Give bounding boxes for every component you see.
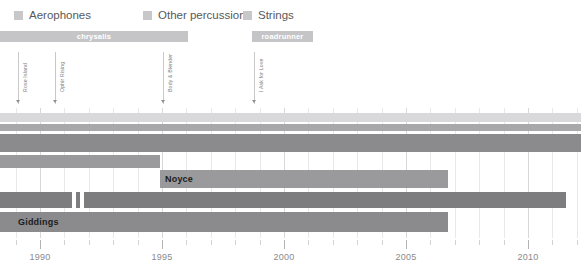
era-band-label: roadrunner (252, 31, 313, 42)
axis-tick-minor (308, 240, 309, 245)
track-4[interactable] (0, 155, 581, 168)
bar-segment[interactable] (0, 113, 581, 122)
legend-label: Aerophones (29, 9, 91, 21)
axis-tick-minor (16, 240, 17, 245)
axis-tick-label: 1990 (29, 252, 50, 262)
event-arrow-icon (53, 100, 57, 103)
axis-tick-minor (260, 240, 261, 245)
axis-tick-minor (333, 240, 334, 245)
axis-tick-minor (138, 240, 139, 245)
axis-tick-minor (89, 240, 90, 245)
axis-tick-minor (64, 240, 65, 245)
track-1[interactable] (0, 113, 581, 122)
bar-segment[interactable] (0, 212, 448, 232)
axis-tick-major (40, 240, 41, 249)
era-band-roadrunner[interactable]: roadrunner (252, 31, 313, 42)
axis-tick-minor (430, 240, 431, 245)
legend-swatch-icon (14, 11, 23, 20)
bar-label-noyce: Noyce (165, 174, 193, 184)
axis-tick-minor (357, 240, 358, 245)
axis-tick-minor (113, 240, 114, 245)
legend-swatch-icon (243, 11, 252, 20)
era-band-chrysalis[interactable]: chrysalis (0, 31, 188, 42)
plot-area: NoyceGiddings (0, 108, 581, 238)
axis-tick-major (406, 240, 407, 249)
axis-tick-major (162, 240, 163, 249)
track-noyce[interactable]: Noyce (0, 170, 581, 188)
axis-tick-label: 2010 (517, 252, 538, 262)
axis-tick-minor (479, 240, 480, 245)
event-arrow-icon (16, 100, 20, 103)
event-arrow-icon (252, 100, 256, 103)
axis-tick-minor (186, 240, 187, 245)
axis-tick-label: 2000 (273, 252, 294, 262)
legend-item-0[interactable]: Aerophones (14, 8, 91, 22)
legend-item-2[interactable]: Strings (243, 8, 294, 22)
axis-tick-minor (211, 240, 212, 245)
event-leader-line (18, 52, 19, 104)
legend-item-1[interactable]: Other percussion (143, 8, 246, 22)
timeline-chart: AerophonesOther percussionStrings chrysa… (0, 0, 581, 275)
event-label: Ophir Rising (59, 62, 65, 92)
bar-segment[interactable] (0, 124, 581, 131)
bar-label-giddings: Giddings (18, 217, 59, 227)
event-label: Body & Blender (167, 54, 173, 92)
track-2[interactable] (0, 124, 581, 131)
event-label: I Ask for Love (258, 58, 264, 92)
event-label: Rose Island (22, 63, 28, 92)
axis-tick-major (284, 240, 285, 249)
bar-segment[interactable] (160, 170, 448, 188)
era-band-label: chrysalis (0, 31, 188, 42)
axis-tick-label: 2005 (395, 252, 416, 262)
axis-tick-minor (455, 240, 456, 245)
event-leader-line (254, 52, 255, 104)
track-giddings[interactable]: Giddings (0, 212, 581, 232)
track-6[interactable] (0, 192, 581, 208)
bar-segment[interactable] (76, 192, 80, 208)
bar-segment[interactable] (0, 192, 72, 208)
track-3[interactable] (0, 134, 581, 152)
bar-segment[interactable] (0, 155, 160, 168)
axis-tick-minor (577, 240, 578, 245)
event-arrow-icon (161, 100, 165, 103)
legend-label: Strings (258, 9, 294, 21)
event-leader-line (163, 52, 164, 104)
x-axis: 19901995200020052010 (0, 240, 581, 270)
legend-swatch-icon (143, 11, 152, 20)
axis-tick-label: 1995 (151, 252, 172, 262)
axis-tick-minor (235, 240, 236, 245)
axis-tick-minor (382, 240, 383, 245)
chart-legend: AerophonesOther percussionStrings (0, 0, 581, 26)
axis-tick-minor (504, 240, 505, 245)
event-leader-line (55, 52, 56, 104)
axis-tick-minor (552, 240, 553, 245)
legend-label: Other percussion (158, 9, 246, 21)
bar-segment[interactable] (0, 134, 581, 152)
bar-segment[interactable] (84, 192, 566, 208)
axis-tick-major (528, 240, 529, 249)
